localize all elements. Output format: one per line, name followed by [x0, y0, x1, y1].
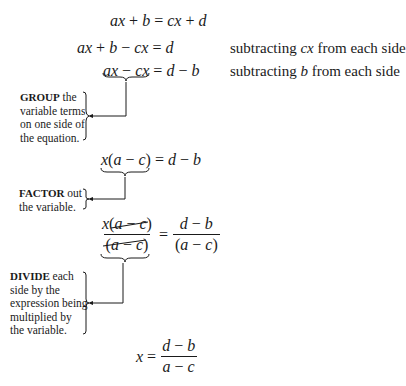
solution-fraction: d − b a − c	[160, 337, 197, 376]
note-variable: cx	[300, 40, 313, 56]
label-keyword: DIVIDE	[10, 270, 50, 282]
equation-solution: x = d − b a − c	[136, 337, 197, 376]
equation-factored: x(a − c) = d − b	[101, 151, 201, 169]
equation-step-subtract-b: ax − cx = d − b	[103, 62, 199, 80]
label-keyword: FACTOR	[19, 187, 64, 199]
label-keyword: GROUP	[20, 91, 60, 103]
equation-step-subtract-cx: ax + b − cx = d	[77, 39, 173, 57]
solution-denominator: a − c	[161, 356, 197, 376]
solution-numerator: d − b	[160, 337, 197, 356]
note-subtract-cx: subtracting cx from each side	[230, 40, 406, 57]
equation-divided: x(a − c) (a − c) = d − b (a − c)	[100, 215, 220, 254]
connector-divide	[92, 263, 123, 303]
note-text: from each side	[308, 63, 400, 79]
note-subtract-b: subtracting b from each side	[230, 63, 400, 80]
note-text: subtracting	[230, 63, 300, 79]
connector-factor	[92, 177, 125, 199]
underbrace-divide	[101, 254, 149, 262]
connector-group	[92, 82, 126, 116]
fraction-right-numerator: d − b	[178, 215, 215, 234]
label-divide-step: DIVIDE each side by the expression being…	[10, 270, 88, 338]
label-group-step: GROUP the variable terms on one side of …	[20, 91, 86, 145]
equals-sign: =	[159, 226, 168, 244]
note-variable: b	[300, 63, 308, 79]
fraction-left: x(a − c) (a − c)	[100, 215, 154, 254]
underbrace-factor	[101, 168, 149, 176]
fraction-right: d − b (a − c)	[173, 215, 220, 254]
note-text: from each side	[314, 40, 406, 56]
fraction-left-numerator: x(a − c)	[100, 215, 154, 234]
note-text: subtracting	[230, 40, 300, 56]
fraction-left-denominator: (a − c)	[104, 234, 151, 254]
solution-lhs: x =	[136, 348, 156, 366]
equation-original: ax + b = cx + d	[110, 12, 206, 30]
label-factor-step: FACTOR out the variable.	[19, 187, 85, 214]
fraction-right-denominator: (a − c)	[173, 234, 220, 254]
